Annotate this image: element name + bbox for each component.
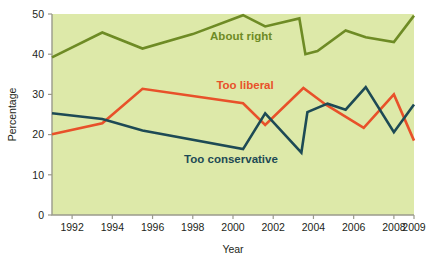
x-tick-label: 2006 xyxy=(342,221,366,233)
x-tick-label: 2004 xyxy=(302,221,326,233)
y-tick-label: 50 xyxy=(32,8,44,20)
x-tick-label: 2002 xyxy=(262,221,286,233)
series-label-about-right: About right xyxy=(210,30,272,42)
y-tick-label: 40 xyxy=(32,48,44,60)
plot-background-group xyxy=(52,14,414,215)
y-tick-label: 20 xyxy=(32,128,44,140)
x-axis-title: Year xyxy=(222,243,244,255)
line-chart: 01020304050 1992199419961998200020022004… xyxy=(0,0,438,258)
x-axis-ticks: 1992199419961998200020022004200620082009 xyxy=(60,215,425,233)
x-tick-label: 1998 xyxy=(181,221,205,233)
x-tick-label: 2009 xyxy=(402,221,426,233)
y-tick-label: 0 xyxy=(38,209,44,221)
x-tick-label: 1992 xyxy=(60,221,84,233)
y-axis-ticks: 01020304050 xyxy=(32,8,52,221)
chart-container: 01020304050 1992199419961998200020022004… xyxy=(0,0,438,258)
x-tick-label: 1994 xyxy=(101,221,125,233)
series-label-too-conservative: Too conservative xyxy=(184,153,278,165)
plot-area-background xyxy=(52,14,414,215)
y-tick-label: 10 xyxy=(32,169,44,181)
y-tick-label: 30 xyxy=(32,88,44,100)
series-label-too-liberal: Too liberal xyxy=(216,79,273,91)
x-tick-label: 1996 xyxy=(141,221,165,233)
x-tick-label: 2000 xyxy=(221,221,245,233)
y-axis-title: Percentage xyxy=(6,87,18,141)
